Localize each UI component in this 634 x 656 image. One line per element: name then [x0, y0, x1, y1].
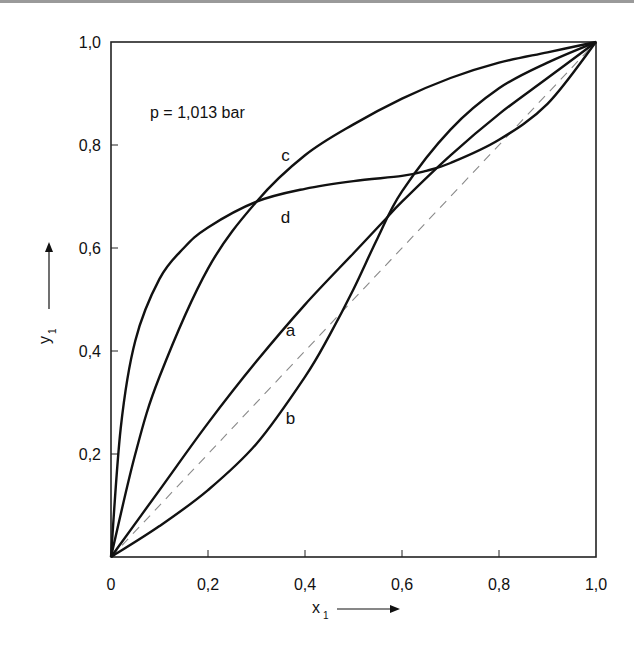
pressure-annotation: p = 1,013 bar [150, 104, 245, 121]
vle-chart: 00,20,40,60,81,00,20,40,60,81,0 abcd p =… [0, 0, 634, 656]
x-axis-label-text: x [312, 599, 320, 616]
x-tick-label: 0 [107, 576, 116, 593]
curve-label-c: c [281, 146, 290, 165]
curve-label-a: a [286, 321, 296, 340]
curve-label-d: d [281, 208, 290, 227]
x-tick-label: 0,2 [197, 576, 219, 593]
y-tick-label: 1,0 [79, 34, 101, 51]
x-tick-label: 1,0 [585, 576, 607, 593]
y-tick-label: 0,4 [79, 343, 101, 360]
x-axis-label-subscript: 1 [323, 610, 329, 621]
x-axis-arrow-icon [390, 605, 400, 613]
y-axis-label-subscript: 1 [47, 328, 58, 334]
x-tick-label: 0,8 [488, 576, 510, 593]
y-axis-arrow-icon [45, 242, 53, 252]
y-tick-label: 0,8 [79, 137, 101, 154]
curve-labels: abcd [281, 146, 296, 428]
y-axis-label-text: y [36, 336, 53, 344]
x-tick-label: 0,6 [391, 576, 413, 593]
y-tick-label: 0,6 [79, 240, 101, 257]
y-tick-label: 0,2 [79, 446, 101, 463]
x-tick-label: 0,4 [294, 576, 316, 593]
curve-label-b: b [286, 409, 295, 428]
y-axis-label: y 1 [36, 242, 58, 344]
x-axis-label: x 1 [312, 599, 400, 621]
